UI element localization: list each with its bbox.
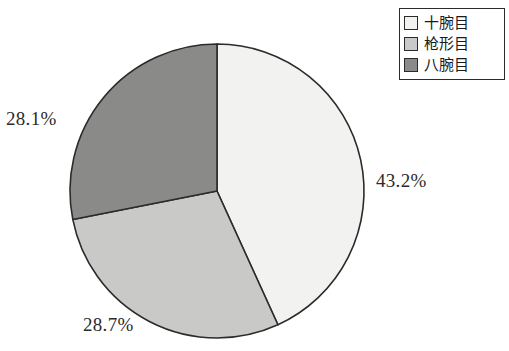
slice-percent-label-decapodiformes: 43.2% xyxy=(376,170,427,192)
legend-item-teuthida: 枪形目 xyxy=(404,33,500,54)
slice-percent-label-octopoda: 28.1% xyxy=(6,108,57,130)
legend-label-decapodiformes: 十腕目 xyxy=(424,15,469,30)
pie-chart-figure: 43.2% 28.7% 28.1% 十腕目 枪形目 八腕目 xyxy=(0,0,509,351)
legend-label-octopoda: 八腕目 xyxy=(424,57,469,72)
legend-swatch-icon-octopoda xyxy=(404,58,418,72)
legend-item-octopoda: 八腕目 xyxy=(404,54,500,75)
legend-label-teuthida: 枪形目 xyxy=(424,36,469,51)
legend-item-decapodiformes: 十腕目 xyxy=(404,12,500,33)
legend-swatch-icon-decapodiformes xyxy=(404,16,418,30)
pie-slice-octopoda xyxy=(70,44,217,219)
pie-slice-group xyxy=(70,44,364,338)
chart-legend: 十腕目 枪形目 八腕目 xyxy=(399,8,505,80)
legend-swatch-icon-teuthida xyxy=(404,37,418,51)
slice-percent-label-teuthida: 28.7% xyxy=(83,314,134,336)
